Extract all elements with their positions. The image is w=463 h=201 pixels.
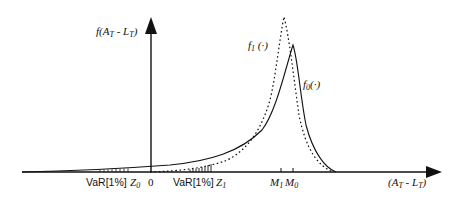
curve-label-f0: f0(·): [303, 79, 320, 92]
density-diagram: f(AT - LT) f1 (·) f0(·) VaR[1%] Z0 0 VaR…: [0, 0, 463, 201]
y-axis-label: f(AT - LT): [96, 26, 137, 39]
curve-f0: [22, 45, 336, 172]
curve-label-f1: f1 (·): [248, 40, 268, 53]
m1-label: M1: [270, 177, 283, 190]
m0-label: M0: [285, 177, 298, 190]
origin-label: 0: [148, 177, 154, 188]
curve-f1: [150, 17, 333, 172]
y-axis-arrow-icon: [145, 17, 157, 34]
diagram-graphics: [0, 0, 463, 201]
var-label-z0: VaR[1%]: [86, 177, 127, 188]
z1-label: Z1: [216, 177, 226, 190]
x-axis-label: (AT - LT): [388, 177, 426, 190]
x-axis-arrow-icon: [426, 166, 442, 178]
z0-label: Z0: [130, 177, 140, 190]
var-label-z1: VaR[1%]: [173, 177, 214, 188]
